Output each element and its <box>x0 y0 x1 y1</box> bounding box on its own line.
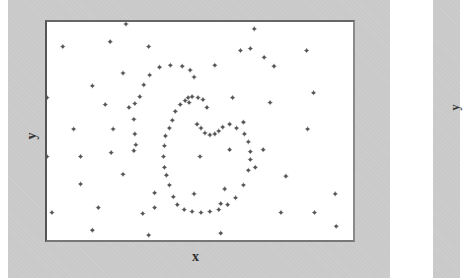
data-point <box>182 207 187 212</box>
data-point <box>268 100 273 105</box>
data-point <box>218 231 223 236</box>
data-point <box>200 97 205 102</box>
data-point <box>167 126 172 131</box>
data-point <box>168 63 173 68</box>
data-point <box>49 210 54 215</box>
data-point <box>163 133 168 138</box>
data-point <box>246 139 251 144</box>
data-point <box>71 127 76 132</box>
data-point <box>252 26 257 31</box>
data-point <box>218 201 223 206</box>
data-point <box>152 205 157 210</box>
data-point <box>60 44 65 49</box>
data-point <box>170 118 175 123</box>
data-point <box>222 186 227 191</box>
data-point <box>78 182 83 187</box>
data-point <box>78 154 83 159</box>
data-point <box>161 154 166 159</box>
data-point <box>192 75 197 80</box>
data-point <box>238 48 243 53</box>
data-point <box>171 194 176 199</box>
data-point <box>227 122 232 127</box>
data-point <box>305 127 310 132</box>
data-point <box>132 131 137 136</box>
figure-panel-right <box>433 0 460 278</box>
data-point <box>124 22 129 26</box>
data-point <box>121 71 126 76</box>
data-point <box>204 105 209 110</box>
data-point <box>253 165 258 170</box>
data-point <box>195 122 200 127</box>
data-point <box>108 39 113 44</box>
data-point <box>283 174 288 179</box>
data-point <box>202 131 207 136</box>
data-point <box>220 125 225 130</box>
data-point <box>261 147 266 152</box>
y-axis-label-right-panel: y <box>448 105 463 111</box>
data-point <box>190 94 195 99</box>
data-point <box>311 90 316 95</box>
data-point <box>162 143 167 148</box>
x-axis-label: x <box>192 249 199 265</box>
data-point <box>199 126 204 131</box>
y-axis-label: y <box>24 133 40 140</box>
data-point <box>248 46 253 51</box>
data-point <box>216 129 221 134</box>
data-point <box>278 210 283 215</box>
data-point <box>242 131 247 136</box>
data-point <box>334 224 339 229</box>
data-point <box>47 95 49 100</box>
data-point <box>248 157 253 162</box>
data-point <box>90 83 95 88</box>
scatter-plot-area <box>45 20 355 242</box>
data-point <box>152 190 157 195</box>
data-point <box>312 210 317 215</box>
data-point <box>246 168 251 173</box>
data-point <box>272 64 277 69</box>
data-point <box>132 101 137 106</box>
data-point <box>146 44 151 49</box>
data-point <box>167 183 172 188</box>
data-point <box>207 132 212 137</box>
data-point <box>157 65 162 70</box>
data-point <box>241 183 246 188</box>
data-point <box>131 117 136 122</box>
data-point <box>234 126 239 131</box>
data-point <box>162 165 167 170</box>
data-point <box>133 142 138 147</box>
data-point <box>227 147 232 152</box>
data-point <box>230 95 235 100</box>
data-point <box>212 63 217 68</box>
data-point <box>225 202 230 207</box>
data-point <box>126 105 131 110</box>
data-point <box>175 202 180 207</box>
data-point <box>173 109 178 114</box>
data-point <box>190 209 195 214</box>
data-point <box>196 95 201 100</box>
data-point <box>212 131 217 136</box>
data-point <box>178 102 183 107</box>
data-point <box>146 233 151 238</box>
data-point <box>188 68 193 73</box>
data-point <box>207 209 212 214</box>
data-point <box>198 154 203 159</box>
data-point <box>47 154 49 159</box>
data-point <box>241 120 246 125</box>
data-point <box>304 48 309 53</box>
data-point <box>109 150 114 155</box>
data-point <box>121 172 126 177</box>
data-point <box>90 228 95 233</box>
data-point <box>141 82 146 87</box>
data-point <box>180 64 185 69</box>
data-point <box>164 173 169 178</box>
data-point <box>186 95 191 100</box>
data-point <box>248 149 253 154</box>
data-point <box>216 207 221 212</box>
data-point <box>192 191 197 196</box>
data-point <box>147 73 152 78</box>
data-point <box>96 205 101 210</box>
data-point <box>199 210 204 215</box>
scatter-points <box>47 22 353 240</box>
data-point <box>137 94 142 99</box>
data-point <box>103 102 108 107</box>
